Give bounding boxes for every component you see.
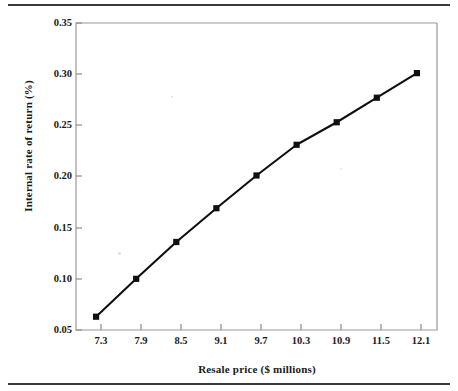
y-axis-title: Internal rate of return (%) (22, 36, 34, 256)
x-tick-label: 11.5 (359, 336, 403, 347)
x-tick-label: 7.3 (79, 336, 123, 347)
x-tick-label: 7.9 (119, 336, 163, 347)
figure-container: 0.35 0.30 0.25 0.20 0.15 0.10 0.05 7.3 7… (0, 0, 458, 391)
x-axis-title: Resale price ($ millions) (76, 363, 438, 375)
x-tick-label: 12.1 (399, 336, 443, 347)
x-tick-label: 10.3 (279, 336, 323, 347)
x-tick-label: 10.9 (319, 336, 363, 347)
x-tick-label: 9.1 (199, 336, 243, 347)
x-tick-label-group: 7.3 7.9 8.5 9.1 9.7 10.3 10.9 11.5 12.1 (0, 0, 458, 391)
x-tick-label: 8.5 (159, 336, 203, 347)
x-tick-label: 9.7 (239, 336, 283, 347)
plot-area: 0.35 0.30 0.25 0.20 0.15 0.10 0.05 7.3 7… (0, 0, 458, 391)
